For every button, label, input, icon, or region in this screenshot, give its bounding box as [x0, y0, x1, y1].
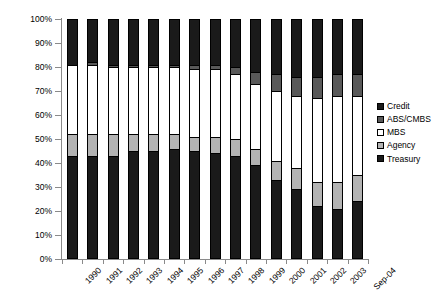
x-axis-tick — [266, 260, 267, 264]
x-axis-label: 1999 — [267, 266, 286, 285]
bar-1998 — [230, 19, 241, 259]
bar-segment-treasury — [169, 149, 180, 259]
bar-segment-mbs — [230, 74, 241, 139]
bar-segment-treasury — [250, 165, 261, 259]
bar-segment-treasury — [148, 151, 159, 259]
x-axis-tick — [307, 260, 308, 264]
x-axis-label: 1998 — [247, 266, 266, 285]
bar-segment-mbs — [148, 67, 159, 134]
bar-segment-treasury — [87, 156, 98, 259]
bar-segment-treasury — [332, 209, 343, 259]
bar-segment-treasury — [352, 201, 363, 259]
x-axis-label: 1994 — [165, 266, 184, 285]
x-axis-label: 2000 — [288, 266, 307, 285]
bar-segment-mbs — [169, 67, 180, 134]
y-axis-tick — [55, 67, 61, 68]
bar-segment-mbs — [250, 84, 261, 149]
x-axis-tick — [184, 260, 185, 264]
bar-segment-credit — [312, 19, 323, 77]
bar-1996 — [189, 19, 200, 259]
bar-1994 — [148, 19, 159, 259]
bar-segment-mbs — [312, 98, 323, 182]
x-axis-label: 1993 — [145, 266, 164, 285]
legend-label: MBS — [387, 128, 405, 137]
bar-segment-mbs — [87, 65, 98, 135]
y-axis-label: 30% — [12, 183, 52, 192]
bar-segment-treasury — [291, 189, 302, 259]
chart-legend: CreditABS/CMBSMBSAgencyTreasury — [377, 101, 431, 164]
x-axis-tick — [368, 260, 369, 264]
legend-label: Credit — [387, 102, 410, 111]
y-axis-tick — [55, 43, 61, 44]
bar-segment-agency — [352, 175, 363, 201]
bar-segment-treasury — [108, 156, 119, 259]
x-axis-label: 2001 — [308, 266, 327, 285]
bar-2002 — [312, 19, 323, 259]
legend-item: ABS/CMBS — [377, 114, 431, 124]
bar-segment-mbs — [271, 91, 282, 161]
bar-1999 — [250, 19, 261, 259]
bar-segment-credit — [230, 19, 241, 67]
bar-1993 — [128, 19, 139, 259]
y-axis-label: 0% — [12, 255, 52, 264]
bar-1990 — [67, 19, 78, 259]
x-axis-tick — [286, 260, 287, 264]
x-axis-label: 1991 — [104, 266, 123, 285]
bar-segment-abs-cmbs — [352, 74, 363, 96]
bar-segment-mbs — [108, 67, 119, 134]
bar-segment-treasury — [312, 206, 323, 259]
x-axis-label: 1995 — [186, 266, 205, 285]
bar-segment-agency — [148, 134, 159, 151]
bar-segment-credit — [352, 19, 363, 74]
plot-area — [62, 19, 368, 259]
bar-segment-credit — [271, 19, 282, 74]
bar-segment-agency — [210, 137, 221, 154]
legend-item: Agency — [377, 141, 431, 151]
bar-2003 — [332, 19, 343, 259]
x-axis-tick — [246, 260, 247, 264]
x-axis-tick — [348, 260, 349, 264]
legend-swatch-icon — [377, 142, 384, 149]
bar-segment-mbs — [67, 65, 78, 135]
x-axis-label: 1992 — [125, 266, 144, 285]
bar-segment-agency — [87, 134, 98, 156]
bar-sep-04 — [352, 19, 363, 259]
x-axis-label: 2003 — [349, 266, 368, 285]
y-axis-tick — [55, 19, 61, 20]
bar-segment-credit — [250, 19, 261, 72]
legend-swatch-icon — [377, 155, 384, 162]
bar-segment-credit — [210, 19, 221, 65]
x-axis-tick — [225, 260, 226, 264]
y-axis-tick — [55, 91, 61, 92]
stacked-bar-chart: 100%90%80%70%60%50%40%30%20%10%0% 199019… — [0, 0, 447, 308]
y-axis-tick — [55, 115, 61, 116]
legend-item: Treasury — [377, 154, 431, 164]
bar-segment-agency — [230, 139, 241, 156]
bar-1992 — [108, 19, 119, 259]
y-axis-tick — [55, 211, 61, 212]
y-axis-tick — [55, 187, 61, 188]
bar-segment-credit — [189, 19, 200, 65]
bar-segment-mbs — [352, 96, 363, 175]
legend-label: Agency — [387, 141, 415, 150]
y-axis-label: 90% — [12, 39, 52, 48]
legend-swatch-icon — [377, 116, 384, 123]
y-axis-tick — [55, 259, 61, 260]
x-axis-label: 1997 — [227, 266, 246, 285]
y-axis-label: 40% — [12, 159, 52, 168]
legend-swatch-icon — [377, 103, 384, 110]
bar-segment-abs-cmbs — [271, 74, 282, 91]
x-axis-label: Sep-04 — [372, 266, 397, 291]
x-axis-tick — [103, 260, 104, 264]
bar-segment-agency — [67, 134, 78, 156]
y-axis-label: 60% — [12, 111, 52, 120]
bar-segment-credit — [87, 19, 98, 62]
bar-1995 — [169, 19, 180, 259]
bar-segment-credit — [332, 19, 343, 74]
x-axis-label: 1990 — [84, 266, 103, 285]
y-axis-label: 70% — [12, 87, 52, 96]
bar-2000 — [271, 19, 282, 259]
bar-segment-treasury — [189, 151, 200, 259]
bar-segment-agency — [128, 134, 139, 151]
bar-segment-agency — [332, 182, 343, 208]
